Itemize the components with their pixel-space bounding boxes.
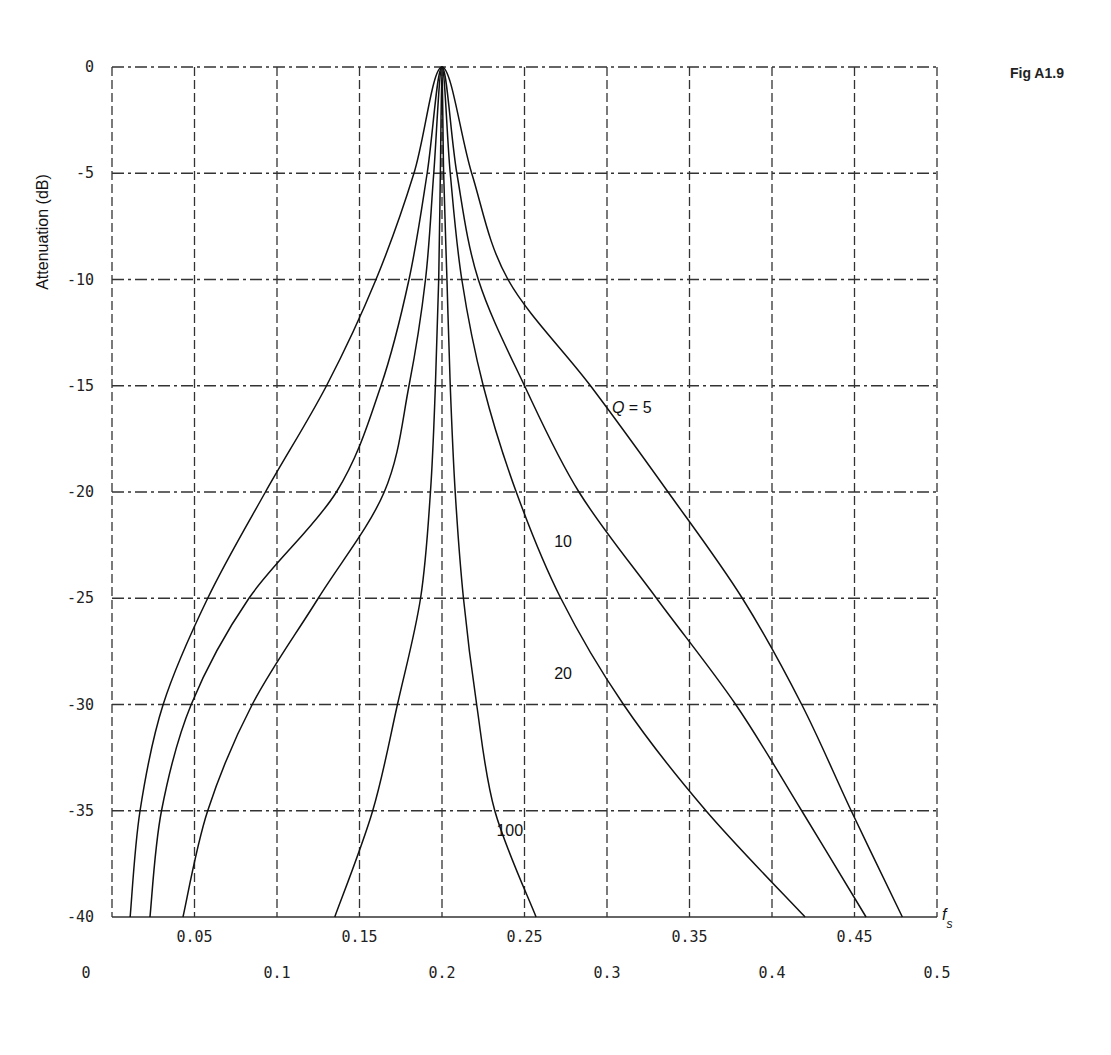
y-tick-label: -40 [67,908,94,926]
x-tick-label-lower: 0.3 [593,964,620,982]
y-tick-label: -10 [67,271,94,289]
curve-label: Q = 5 [612,399,652,416]
x-tick-label-lower: 0 [81,964,90,982]
attenuation-chart: 0-5-10-15-20-25-30-35-400.050.150.250.35… [0,0,1111,1055]
curve-labels: Q = 51020100 [496,399,651,839]
y-tick-label: 0 [85,58,94,76]
x-tick-label-lower: 0.5 [923,964,950,982]
figure-label: Fig A1.9 [1010,65,1064,81]
x-tick-label-upper: 0.45 [836,928,872,946]
x-tick-label-upper: 0.15 [341,928,377,946]
x-tick-label-lower: 0.1 [263,964,290,982]
x-tick-label-upper: 0.25 [506,928,542,946]
y-tick-label: -35 [67,802,94,820]
y-tick-label: -25 [67,589,94,607]
y-tick-label: -20 [67,483,94,501]
x-tick-label-upper: 0.05 [176,928,212,946]
curve-label: 100 [496,822,523,839]
curve-label: 20 [554,665,572,682]
x-tick-label-lower: 0.2 [428,964,455,982]
curve-label: 10 [554,533,572,550]
y-tick-label: -15 [67,377,94,395]
grid [112,67,937,917]
y-tick-label: -5 [76,164,94,182]
x-tick-label-lower: 0.4 [758,964,785,982]
y-axis-label: Attenuation (dB) [34,174,51,290]
y-tick-label: -30 [67,696,94,714]
x-axis-label: fs [942,906,952,931]
x-tick-label-upper: 0.35 [671,928,707,946]
